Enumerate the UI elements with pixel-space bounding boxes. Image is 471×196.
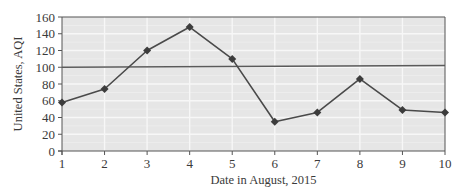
x-tick-label: 10 [439,156,452,171]
x-tick-label: 3 [144,156,151,171]
y-tick-label: 140 [36,26,56,41]
x-tick-label: 8 [357,156,364,171]
y-tick-label: 80 [42,77,55,92]
x-axis-title: Date in August, 2015 [210,173,316,187]
x-tick-label: 2 [101,156,108,171]
x-tick-label: 7 [314,156,321,171]
y-tick-label: 20 [42,127,55,142]
x-tick-label: 6 [272,156,279,171]
x-tick-label: 4 [186,156,193,171]
y-axis-title: United States, AQI [11,37,25,132]
x-axis: 12345678910 [59,151,452,171]
y-tick-label: 60 [42,93,55,108]
x-tick-label: 5 [229,156,236,171]
y-tick-label: 160 [36,10,56,25]
y-tick-label: 0 [49,144,56,159]
y-tick-label: 40 [42,110,55,125]
y-axis: 020406080100120140160 [36,10,63,159]
y-tick-label: 120 [36,43,56,58]
x-tick-label: 1 [59,156,66,171]
x-tick-label: 9 [399,156,406,171]
y-tick-label: 100 [36,60,56,75]
aqi-line-chart: 020406080100120140160 12345678910 United… [0,0,471,196]
